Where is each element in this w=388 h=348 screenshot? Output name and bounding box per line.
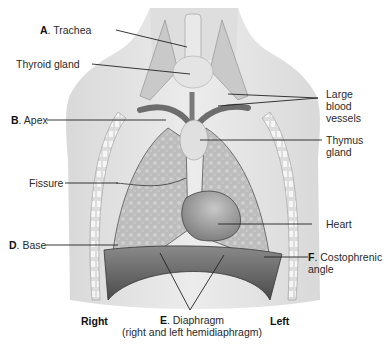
label-text: Diaphragm: [173, 314, 224, 326]
label-line: blood: [326, 100, 361, 112]
label-letter: D: [9, 239, 17, 251]
label-text: Base: [22, 239, 46, 251]
label-text: Fissure: [29, 177, 63, 189]
label-line: angle: [308, 263, 382, 275]
thorax-illustration: [0, 0, 388, 348]
label-letter: B: [11, 114, 19, 126]
label-apex: B. Apex: [11, 114, 48, 126]
label-line: Thymus: [326, 134, 363, 146]
label-costophrenic-angle: F. Costophrenic angle: [308, 251, 382, 275]
label-diaphragm: E. Diaphragm (right and left hemidiaphra…: [120, 314, 264, 338]
label-thyroid-gland: Thyroid gland: [16, 58, 80, 70]
label-text: Costophrenic: [320, 251, 382, 263]
label-thymus-gland: Thymus gland: [326, 134, 363, 158]
thyroid-shape: [173, 56, 213, 88]
label-text: Heart: [326, 218, 352, 230]
label-heart: Heart: [326, 218, 352, 230]
label-line: (right and left hemidiaphragm): [120, 326, 264, 338]
label-text: Thyroid gland: [16, 58, 80, 70]
label-letter: A: [40, 24, 48, 36]
label-text: Trachea: [53, 24, 91, 36]
label-line: Large: [326, 88, 361, 100]
label-line: gland: [326, 146, 363, 158]
label-fissure: Fissure: [29, 177, 63, 189]
label-base: D. Base: [9, 239, 46, 251]
label-trachea: A. Trachea: [40, 24, 91, 36]
label-large-blood-vessels: Large blood vessels: [326, 88, 361, 124]
label-letter: E: [160, 314, 167, 326]
label-side-right: Right: [81, 315, 108, 327]
label-line: vessels: [326, 112, 361, 124]
label-side-left: Left: [270, 315, 289, 327]
label-text: Apex: [24, 114, 48, 126]
